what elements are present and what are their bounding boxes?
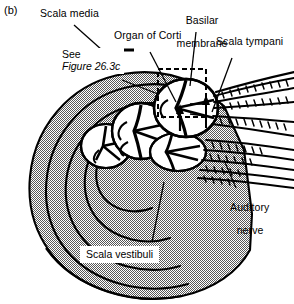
cross-section-basal (154, 79, 218, 137)
see-figure-line1: See (62, 48, 81, 60)
label-auditory-nerve-line1: Auditory (230, 201, 269, 213)
figure-panel-b: (b) Scala media Organ of Corti Basilar m… (0, 0, 294, 304)
label-scala-media: Scala media (40, 8, 99, 20)
label-basilar-membrane-line1: Basilar (186, 14, 219, 26)
see-figure-line2: Figure 26.3c (62, 60, 120, 72)
leader-scala-media (74, 25, 102, 50)
label-auditory-nerve: Auditory nerve (212, 190, 276, 248)
label-auditory-nerve-line2: nerve (237, 224, 264, 236)
cross-section-lower (150, 133, 206, 171)
see-figure-callout: See Figure 26.3c (58, 48, 124, 74)
label-scala-vestibuli: Scala vestibuli (80, 246, 159, 263)
label-basilar-membrane: Basilar membrane (160, 3, 232, 61)
label-scala-tympani: Scala tympani (216, 36, 283, 48)
panel-tag: (b) (4, 4, 17, 16)
